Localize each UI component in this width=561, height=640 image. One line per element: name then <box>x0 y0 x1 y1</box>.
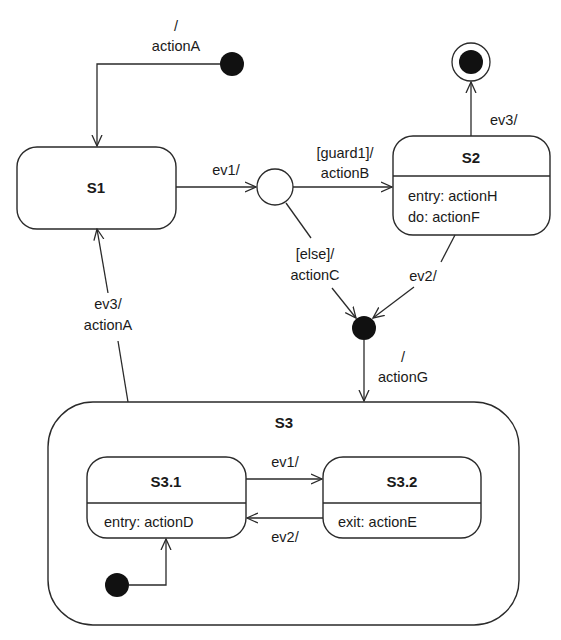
label-choice-s2-action: actionB <box>321 165 369 181</box>
state-s2-title: S2 <box>462 149 480 166</box>
final-state <box>452 43 490 81</box>
state-s2-do: do: actionF <box>408 209 480 225</box>
state-s3-1-entry: entry: actionD <box>104 514 193 530</box>
transition-s3-s1-lower <box>118 341 128 402</box>
label-merge-s3-guard: / <box>401 349 406 365</box>
label-init-s1-guard: / <box>174 18 179 34</box>
label-choice-merge-guard: [else]/ <box>296 246 336 262</box>
label-s32-s31: ev2/ <box>271 529 299 545</box>
initial-state-inner <box>105 573 129 597</box>
state-s2-entry: entry: actionH <box>408 188 497 204</box>
label-s31-s32: ev1/ <box>271 454 299 470</box>
state-s3-2[interactable]: S3.2 exit: actionE <box>323 457 481 538</box>
label-s2-final: ev3/ <box>490 112 518 128</box>
state-s1-title: S1 <box>87 179 105 196</box>
transition-choice-merge-lower <box>332 288 356 318</box>
label-s3-s1-event: ev3/ <box>94 296 122 312</box>
state-s1[interactable]: S1 <box>17 147 176 229</box>
state-s3-2-title: S3.2 <box>387 473 418 490</box>
state-s3-2-exit: exit: actionE <box>338 514 417 530</box>
label-choice-merge-action: actionC <box>290 267 339 283</box>
transition-s2-merge-upper <box>441 235 455 262</box>
state-s2[interactable]: S2 entry: actionH do: actionF <box>393 136 550 235</box>
label-init-s1-action: actionA <box>152 38 201 54</box>
label-s2-merge: ev2/ <box>409 268 437 284</box>
label-s1-choice: ev1/ <box>212 162 240 178</box>
choice-pseudostate <box>257 169 293 205</box>
transition-init-s1 <box>97 64 220 146</box>
transition-s3-s1-upper <box>97 229 108 293</box>
label-s3-s1-action: actionA <box>84 317 133 333</box>
transition-choice-merge-upper <box>286 203 311 238</box>
state-s3-1[interactable]: S3.1 entry: actionD <box>87 457 246 538</box>
state-machine-diagram: / actionA S1 ev1/ [guard1]/ actionB S2 e… <box>0 0 561 640</box>
junction-pseudostate <box>352 316 376 340</box>
label-merge-s3-action: actionG <box>378 369 428 385</box>
transition-s2-merge-lower <box>373 287 414 318</box>
label-choice-s2-guard: [guard1]/ <box>316 145 374 161</box>
state-s3-1-title: S3.1 <box>151 473 182 490</box>
initial-state-top <box>220 52 244 76</box>
state-s3-title: S3 <box>275 414 293 431</box>
